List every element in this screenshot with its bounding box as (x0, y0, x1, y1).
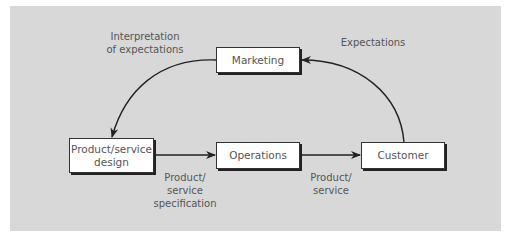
node-customer-label: Customer (377, 149, 428, 162)
node-customer: Customer (361, 142, 445, 169)
node-marketing-label: Marketing (232, 54, 284, 67)
edge-label-product-line2: service (305, 184, 357, 197)
node-operations-label: Operations (229, 149, 287, 162)
edge-label-expectations: Expectations (338, 36, 408, 49)
edge-label-interpretation-line2: of expectations (100, 43, 190, 56)
node-design-label-line2: design (94, 156, 129, 169)
node-marketing: Marketing (216, 47, 300, 73)
node-product-service-design: Product/service design (69, 138, 154, 173)
arrow-customer-to-marketing (302, 60, 404, 142)
edge-label-interpretation-line1: Interpretation (100, 30, 190, 43)
edge-label-spec-line1: Product/ (150, 171, 220, 184)
edge-label-expectations-text: Expectations (338, 36, 408, 49)
connectors (0, 0, 511, 244)
edge-label-interpretation: Interpretation of expectations (100, 30, 190, 56)
arrow-marketing-to-design (112, 60, 216, 137)
node-operations: Operations (216, 142, 300, 169)
edge-label-product-service: Product/ service (305, 171, 357, 197)
node-design-label-line1: Product/service (71, 143, 152, 156)
edge-label-specification: Product/ service specification (150, 171, 220, 210)
edge-label-spec-line2: service (150, 184, 220, 197)
edge-label-product-line1: Product/ (305, 171, 357, 184)
edge-label-spec-line3: specification (150, 197, 220, 210)
